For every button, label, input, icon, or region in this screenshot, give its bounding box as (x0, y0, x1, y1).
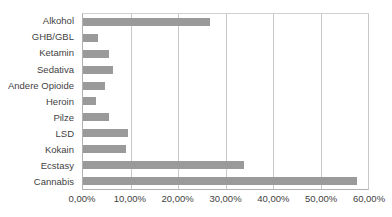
bar (83, 113, 109, 121)
bar (83, 129, 128, 137)
bar-row (83, 94, 368, 110)
axis-tick-label: 10,00% (114, 192, 146, 206)
category-label: Cannabis (0, 174, 78, 190)
bar-row (83, 173, 368, 189)
bar (83, 34, 98, 42)
bar (83, 177, 357, 185)
category-label: Pilze (0, 110, 78, 126)
category-label: GHB/GBL (0, 29, 78, 45)
chart-title (0, 0, 392, 1)
bar-row (83, 30, 368, 46)
bar-row (83, 141, 368, 157)
bar (83, 97, 96, 105)
bar-row (83, 125, 368, 141)
axis-tick-label: 60,00% (353, 192, 385, 206)
axis-tick-label: 20,00% (162, 192, 194, 206)
bar-row (83, 157, 368, 173)
bar-row (83, 62, 368, 78)
bar-row (83, 78, 368, 94)
category-label: Andere Opioide (0, 77, 78, 93)
value-axis: 0,00%10,00%20,00%30,00%40,00%50,00%60,00… (82, 192, 369, 210)
category-axis: AlkoholGHB/GBLKetaminSedativaAndere Opio… (0, 13, 78, 190)
category-label: Kokain (0, 142, 78, 158)
category-label: LSD (0, 126, 78, 142)
axis-tick-label: 50,00% (305, 192, 337, 206)
category-label: Ketamin (0, 45, 78, 61)
bar-row (83, 109, 368, 125)
category-label: Heroin (0, 93, 78, 109)
category-label: Sedativa (0, 61, 78, 77)
gridline (368, 14, 369, 189)
category-label: Ecstasy (0, 158, 78, 174)
bar (83, 66, 113, 74)
bar (83, 18, 210, 26)
bar-row (83, 46, 368, 62)
bar-row (83, 14, 368, 30)
bar (83, 145, 126, 153)
axis-tick-label: 30,00% (209, 192, 241, 206)
axis-tick-label: 40,00% (257, 192, 289, 206)
bar-chart: AlkoholGHB/GBLKetaminSedativaAndere Opio… (0, 0, 392, 217)
category-label: Alkohol (0, 13, 78, 29)
bar-series (83, 14, 368, 189)
axis-tick-label: 0,00% (69, 192, 96, 206)
plot-area (82, 13, 369, 190)
bar (83, 50, 109, 58)
bar (83, 161, 244, 169)
bar (83, 82, 105, 90)
